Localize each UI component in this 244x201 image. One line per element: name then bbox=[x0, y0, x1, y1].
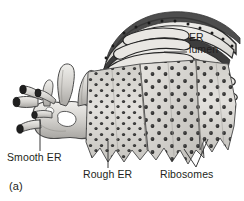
smooth-er-tube-opening bbox=[20, 85, 26, 93]
label-er-lumen-line1: ER bbox=[189, 31, 218, 43]
smooth-er-tube-opening bbox=[35, 89, 41, 97]
er-figure: ER lumen Smooth ER Rough ER Ribosomes (a… bbox=[0, 0, 244, 201]
label-rough-er: Rough ER bbox=[83, 169, 132, 181]
smooth-er-tube-opening bbox=[13, 97, 20, 106]
panel-marker: (a) bbox=[9, 181, 23, 193]
label-ribosomes: Ribosomes bbox=[160, 169, 213, 181]
label-smooth-er: Smooth ER bbox=[7, 152, 62, 164]
smooth-er-tube-opening bbox=[17, 125, 23, 133]
label-er-lumen-line2: lumen bbox=[189, 43, 218, 55]
smooth-er-tube-opening bbox=[32, 111, 38, 118]
label-er-lumen: ER lumen bbox=[189, 31, 218, 55]
